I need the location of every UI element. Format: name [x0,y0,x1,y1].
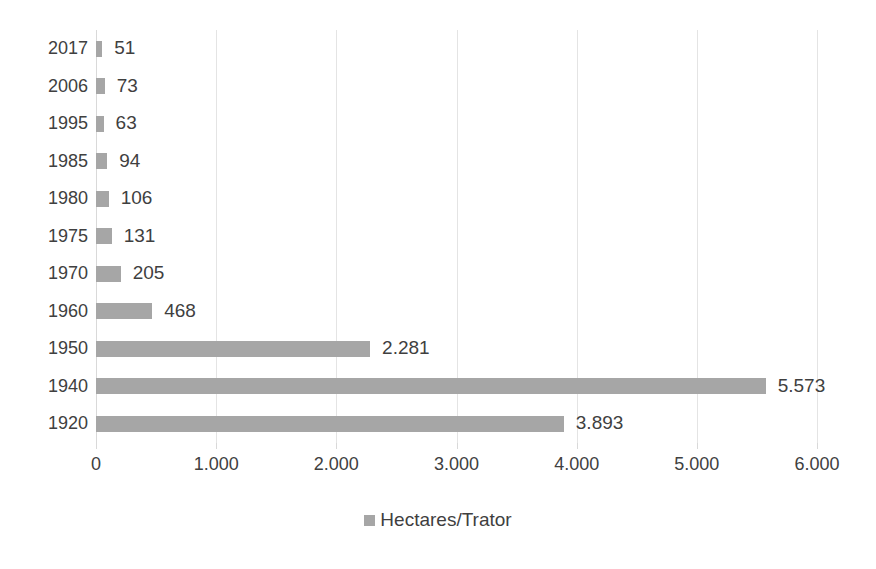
axis-tick [577,443,578,449]
axis-tick [697,443,698,449]
category-row: 1920 [0,405,88,443]
bar-row: 73 [96,68,817,106]
category-axis-label: 1950 [48,337,88,359]
value-axis: 01.0002.0003.0004.0005.0006.000 [0,452,876,478]
bar-value-label: 5.573 [778,375,826,397]
bar-value-label: 3.893 [576,412,624,434]
bar-value-label: 63 [116,112,137,134]
bar[interactable] [96,116,104,132]
bar-row: 51 [96,30,817,68]
category-row: 1975 [0,218,88,256]
value-axis-label: 3.000 [434,452,479,476]
bar-value-label: 106 [121,187,153,209]
axis-tick [216,443,217,449]
chart-legend: Hectares/Trator [0,508,876,532]
value-axis-label: 6.000 [794,452,839,476]
bar-value-label: 2.281 [382,337,430,359]
category-row: 1995 [0,105,88,143]
bar-row: 5.573 [96,368,817,406]
category-axis-label: 1920 [48,412,88,434]
bar-value-label: 73 [117,75,138,97]
bar-row: 94 [96,143,817,181]
category-axis-label: 1980 [48,187,88,209]
value-axis-label: 4.000 [554,452,599,476]
category-row: 1940 [0,368,88,406]
bar-value-label: 94 [119,150,140,172]
category-axis-label: 2006 [48,75,88,97]
value-axis-label: 5.000 [674,452,719,476]
category-row: 1985 [0,143,88,181]
category-axis-label: 1970 [48,262,88,284]
category-axis-label: 2017 [48,37,88,59]
category-row: 1960 [0,293,88,331]
bar[interactable] [96,228,112,244]
bar-chart: 2017200619951985198019751970196019501940… [0,0,876,569]
value-axis-label: 2.000 [314,452,359,476]
category-axis-label: 1940 [48,375,88,397]
bar[interactable] [96,378,766,394]
bar[interactable] [96,416,564,432]
plot-area: 517363941061312054682.2815.5733.893 [96,30,817,443]
bar-row: 63 [96,105,817,143]
category-axis-label: 1975 [48,225,88,247]
bar-value-label: 131 [124,225,156,247]
category-axis-label: 1995 [48,112,88,134]
axis-tick [336,443,337,449]
bar-row: 106 [96,180,817,218]
bar-value-label: 468 [164,300,196,322]
category-axis-label: 1985 [48,150,88,172]
axis-tick [817,443,818,449]
category-row: 1970 [0,255,88,293]
category-row: 1980 [0,180,88,218]
bar[interactable] [96,303,152,319]
bar[interactable] [96,341,370,357]
bar-row: 2.281 [96,330,817,368]
category-row: 1950 [0,330,88,368]
category-axis-label: 1960 [48,300,88,322]
bar-value-label: 205 [133,262,165,284]
bar[interactable] [96,191,109,207]
bar[interactable] [96,266,121,282]
axis-tick [96,443,97,449]
category-row: 2017 [0,30,88,68]
bar[interactable] [96,41,102,57]
bar-row: 205 [96,255,817,293]
bar-row: 3.893 [96,405,817,443]
bar-row: 468 [96,293,817,331]
value-axis-label: 0 [91,452,101,476]
bar[interactable] [96,153,107,169]
category-row: 2006 [0,68,88,106]
category-axis: 2017200619951985198019751970196019501940… [0,30,88,443]
bar-row: 131 [96,218,817,256]
value-axis-label: 1.000 [194,452,239,476]
legend-square-marker [364,515,375,526]
bar[interactable] [96,78,105,94]
bar-value-label: 51 [114,37,135,59]
axis-tick [457,443,458,449]
legend-label: Hectares/Trator [380,508,511,532]
